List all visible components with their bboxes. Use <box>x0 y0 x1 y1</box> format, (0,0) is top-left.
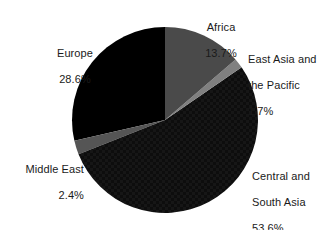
pie-label-east-asia-name-line1: East Asia and <box>248 53 326 66</box>
pie-label-middle-east-value: 2.4% <box>2 189 84 202</box>
pie-label-central-and-south-asia: Central and South Asia 53.6% <box>252 157 326 230</box>
pie-label-africa-name: Africa <box>184 21 258 34</box>
pie-label-middle-east: Middle East 2.4% <box>2 150 84 215</box>
pie-label-europe-name: Europe <box>37 47 113 60</box>
pie-chart-figure: Africa 13.7% East Asia and the Pacific 1… <box>0 0 326 230</box>
pie-label-africa-value: 13.7% <box>184 47 258 60</box>
pie-label-europe-value: 28.6% <box>37 73 113 86</box>
pie-label-central-south-asia-name-line2: South Asia <box>252 196 326 209</box>
pie-label-central-south-asia-value: 53.6% <box>252 222 326 230</box>
pie-label-europe: Europe 28.6% <box>37 34 113 99</box>
pie-label-africa: Africa 13.7% <box>184 8 258 73</box>
pie-label-middle-east-name: Middle East <box>2 163 84 176</box>
pie-label-east-asia-name-line2: the Pacific <box>248 79 326 92</box>
pie-label-east-asia-and-the-pacific: East Asia and the Pacific 1.7% <box>248 40 326 131</box>
pie-label-central-south-asia-name-line1: Central and <box>252 170 326 183</box>
pie-label-east-asia-value: 1.7% <box>248 105 326 118</box>
